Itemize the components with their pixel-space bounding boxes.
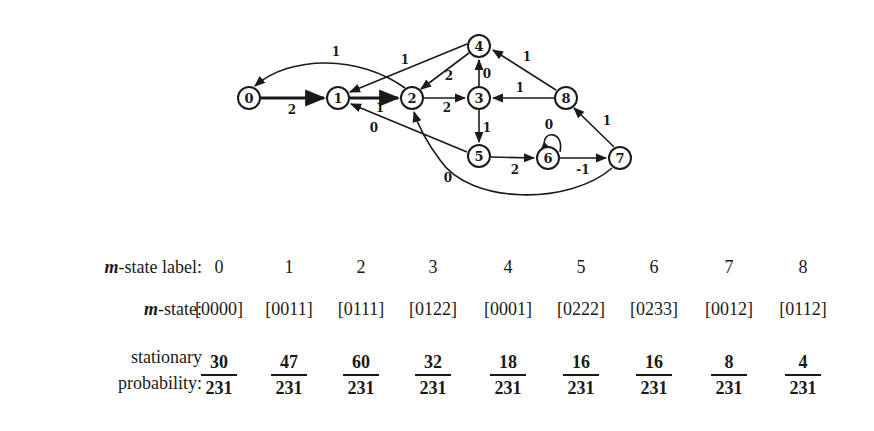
m-state-6: [0233]: [619, 298, 689, 320]
edge-label-1-2: 1: [376, 101, 384, 115]
svg-text:6: 6: [543, 151, 552, 166]
edge-label-6-6: 0: [545, 118, 553, 132]
svg-text:5: 5: [474, 149, 483, 164]
node-6: 6: [537, 147, 559, 169]
edge-label-7-8: 1: [603, 114, 611, 128]
svg-text:8: 8: [561, 91, 570, 106]
edge-label-2-3: 2: [443, 101, 451, 115]
probability-3: 32231: [403, 352, 463, 399]
m-state-8: [0112]: [768, 298, 838, 320]
state-label-8: 8: [768, 256, 838, 278]
node-2: 2: [401, 87, 423, 109]
svg-text:0: 0: [244, 91, 253, 106]
m-state-0: [0000]: [184, 298, 254, 320]
edge-labels: 2 1 1 2 1 2 0 1 1 1 0 2 0 -1 1 0: [288, 45, 611, 185]
nodes: 0 1 2 3 4 5 6 7 8: [238, 35, 631, 169]
edge-label-7-2: 0: [444, 171, 452, 185]
svg-text:4: 4: [474, 39, 483, 54]
edge-label-4-1: 1: [401, 53, 409, 67]
edge-5-6: [491, 157, 534, 158]
state-label-4: 4: [473, 256, 543, 278]
svg-text:3: 3: [474, 91, 483, 106]
state-label-3: 3: [398, 256, 468, 278]
state-transition-graph: 2 1 1 2 1 2 0 1 1 1 0 2 0 -1 1 0 0 1 2 3…: [0, 0, 874, 220]
state-label-6: 6: [619, 256, 689, 278]
svg-text:1: 1: [333, 91, 342, 106]
m-state-2: [0111]: [326, 298, 396, 320]
probability-8: 4231: [773, 352, 833, 399]
m-state-7: [0012]: [694, 298, 764, 320]
edge-label-8-3: 1: [516, 81, 524, 95]
probability-4: 18231: [478, 352, 538, 399]
m-state-5: [0222]: [546, 298, 616, 320]
edge-2-0: [255, 63, 405, 88]
node-8: 8: [555, 87, 577, 109]
node-4: 4: [468, 35, 490, 57]
node-1: 1: [327, 87, 349, 109]
probability-6: 16231: [624, 352, 684, 399]
edge-label-8-4: 1: [523, 50, 531, 64]
m-state-3: [0122]: [398, 298, 468, 320]
edge-label-6-7: -1: [576, 163, 589, 177]
probability-0: 30231: [189, 352, 249, 399]
edge-label-0-1: 2: [288, 103, 296, 117]
probability-2: 60231: [331, 352, 391, 399]
probability-1: 47231: [259, 352, 319, 399]
m-state-1: [0011]: [254, 298, 324, 320]
state-label-2: 2: [326, 256, 396, 278]
probability-5: 16231: [551, 352, 611, 399]
edges: [255, 44, 614, 195]
edge-label-4-2: 2: [445, 69, 453, 83]
edge-label-2-0: 1: [332, 45, 340, 59]
m-state-4: [0001]: [473, 298, 543, 320]
state-label-5: 5: [546, 256, 616, 278]
edge-label-3-4: 0: [483, 67, 491, 81]
svg-text:7: 7: [615, 151, 624, 166]
state-label-1: 1: [254, 256, 324, 278]
edge-label-5-6: 2: [511, 163, 519, 177]
node-3: 3: [468, 87, 490, 109]
probability-7: 8231: [699, 352, 759, 399]
svg-text:2: 2: [407, 91, 416, 106]
node-7: 7: [609, 147, 631, 169]
node-5: 5: [468, 145, 490, 167]
edge-label-5-1: 0: [370, 121, 378, 135]
state-label-0: 0: [184, 256, 254, 278]
state-label-7: 7: [694, 256, 764, 278]
edge-label-3-5: 1: [483, 121, 491, 135]
node-0: 0: [238, 87, 260, 109]
